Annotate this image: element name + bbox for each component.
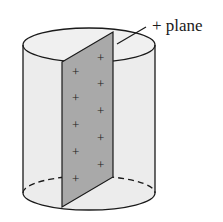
charge-plus-icon: + xyxy=(72,90,79,105)
charge-plus-icon: + xyxy=(72,64,79,79)
cylinder-plane-diagram: + + + + + + + + + + + plane xyxy=(0,0,223,222)
charge-plus-icon: + xyxy=(97,50,104,65)
charge-plus-icon: + xyxy=(97,103,104,118)
charge-plus-icon: + xyxy=(72,117,79,132)
plane-label: + plane xyxy=(152,16,203,35)
charged-plane xyxy=(62,32,113,207)
charge-plus-icon: + xyxy=(97,157,104,172)
charge-plus-icon: + xyxy=(72,144,79,159)
charge-plus-icon: + xyxy=(97,130,104,145)
charge-plus-icon: + xyxy=(97,76,104,91)
charge-plus-icon: + xyxy=(72,171,79,186)
